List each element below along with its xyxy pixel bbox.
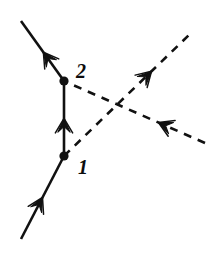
feynman-diagram-figure: 12 [0,0,211,256]
vertex-label-1: 1 [78,156,88,178]
vertex-dot-1 [59,151,68,160]
vertex-label-2: 2 [75,60,86,82]
vertex-dot-2 [59,76,68,85]
feynman-diagram-canvas: 12 [0,0,211,256]
